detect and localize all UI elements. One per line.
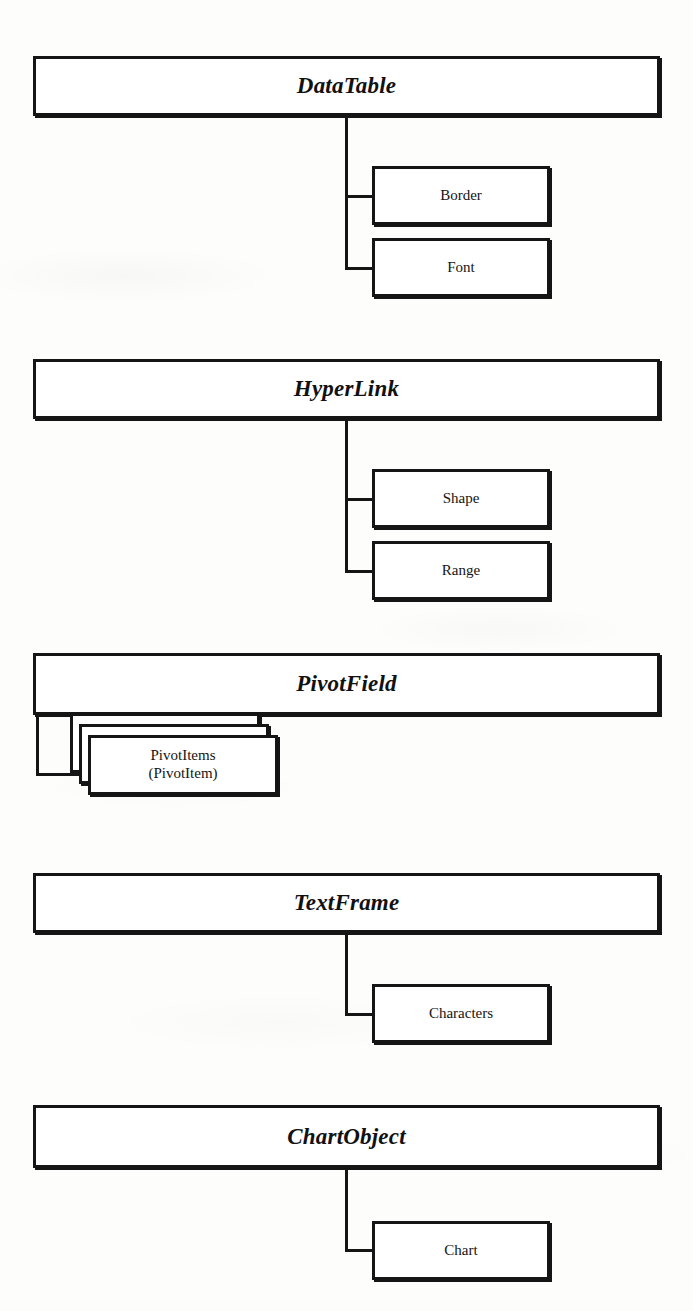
connector-line-vertical (345, 933, 348, 1015)
member-box-label: PivotItems (PivotItem) (148, 747, 217, 782)
class-box-chartobject[interactable]: ChartObject (33, 1105, 660, 1168)
member-box-hyperlink-0[interactable]: Shape (372, 469, 550, 528)
member-box-label: Font (447, 259, 475, 277)
member-box-chartobject-0[interactable]: Chart (372, 1221, 550, 1280)
member-box-pivotfield-0[interactable]: PivotItems (PivotItem) (88, 735, 278, 795)
class-box-label: ChartObject (287, 1124, 405, 1150)
member-box-label: Range (442, 562, 480, 580)
member-box-label: Chart (444, 1242, 477, 1260)
connector-line-vertical (345, 116, 348, 270)
member-box-hyperlink-1[interactable]: Range (372, 541, 550, 600)
member-box-textframe-0[interactable]: Characters (372, 984, 550, 1043)
connector-line-vertical (36, 715, 39, 775)
member-box-label: Characters (429, 1005, 493, 1023)
member-box-datatable-1[interactable]: Font (372, 238, 550, 297)
connector-line-vertical (345, 1168, 348, 1251)
member-box-datatable-0[interactable]: Border (372, 166, 550, 225)
connector-line-vertical (345, 419, 348, 572)
member-box-label: Shape (443, 490, 480, 508)
diagram-canvas: DataTableBorderFontHyperLinkShapeRangePi… (0, 0, 693, 1311)
member-box-label: Border (440, 187, 482, 205)
